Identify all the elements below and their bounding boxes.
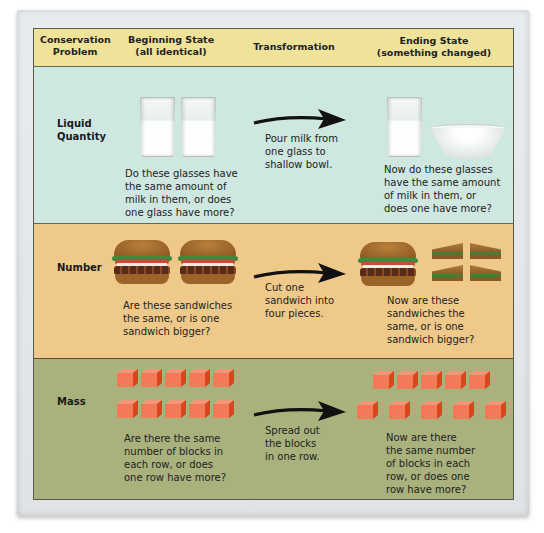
header-ending-state: Ending State (something changed) xyxy=(364,35,504,59)
transformation-text: Cut one sandwich into four pieces. xyxy=(265,281,334,320)
block-icon xyxy=(421,401,442,419)
block-icon xyxy=(485,401,506,419)
block-icon xyxy=(373,371,394,389)
block-icon xyxy=(117,400,138,418)
block-icon xyxy=(189,400,210,418)
row-label: Number xyxy=(57,261,102,274)
right-arrow-icon xyxy=(252,399,347,423)
block-icon xyxy=(397,371,418,389)
ending-question: Now are these sandwiches the same, or is… xyxy=(387,294,474,346)
row-label: Liquid Quantity xyxy=(57,117,106,143)
row-label: Mass xyxy=(57,395,86,408)
beginning-question: Are these sandwiches the same, or is one… xyxy=(123,299,232,338)
header-row: Conservation Problem Beginning State (al… xyxy=(34,29,513,67)
block-icon xyxy=(389,401,410,419)
sandwich-icon xyxy=(178,240,238,284)
right-arrow-icon xyxy=(252,107,347,131)
block-icon xyxy=(445,371,466,389)
header-conservation-problem: Conservation Problem xyxy=(40,34,110,58)
block-icon xyxy=(453,401,474,419)
beginning-question: Are there the same number of blocks in e… xyxy=(124,432,226,484)
transformation-text: Spread out the blocks in one row. xyxy=(265,424,320,463)
sandwich-quarter-icon xyxy=(432,265,463,281)
block-icon xyxy=(165,369,186,387)
beginning-question: Do these glasses have the same amount of… xyxy=(125,167,238,219)
block-icon xyxy=(213,400,234,418)
sandwich-quarter-icon xyxy=(470,265,501,281)
block-icon xyxy=(117,369,138,387)
block-icon xyxy=(165,400,186,418)
row-number: Number Are these sandwiches the same, or… xyxy=(34,224,513,359)
block-icon xyxy=(141,369,162,387)
header-beginning-state: Beginning State (all identical) xyxy=(116,34,226,58)
ending-question: Now do these glasses have the same amoun… xyxy=(384,163,500,215)
block-icon xyxy=(189,369,210,387)
block-icon xyxy=(141,400,162,418)
milk-glass-icon xyxy=(387,97,422,157)
milk-glass-icon xyxy=(181,97,216,157)
row-mass: Mass Are there the same number of blocks… xyxy=(34,359,513,499)
ending-question: Now are there the same number of blocks … xyxy=(386,431,475,496)
sandwich-icon xyxy=(112,240,172,284)
transformation-text: Pour milk from one glass to shallow bowl… xyxy=(265,132,338,171)
sandwich-quarter-icon xyxy=(470,243,501,259)
block-icon xyxy=(213,369,234,387)
row-liquid-quantity: Liquid Quantity Do these glasses have th… xyxy=(34,67,513,224)
sandwich-quarter-icon xyxy=(432,243,463,259)
conservation-table: Conservation Problem Beginning State (al… xyxy=(33,28,514,500)
shallow-bowl-icon xyxy=(430,128,506,158)
header-transformation: Transformation xyxy=(239,41,349,53)
block-icon xyxy=(421,371,442,389)
milk-glass-icon xyxy=(140,97,175,157)
block-icon xyxy=(469,371,490,389)
block-icon xyxy=(357,401,378,419)
sandwich-icon xyxy=(358,242,418,286)
